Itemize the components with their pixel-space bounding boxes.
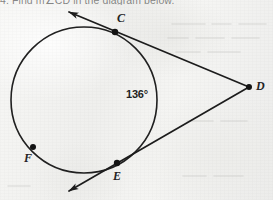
geometry-figure: [0, 0, 273, 200]
point-dot-E: [114, 160, 120, 166]
point-dot-C: [112, 29, 118, 35]
point-label-F: F: [24, 152, 32, 164]
point-label-E: E: [113, 170, 121, 182]
arc-measure-label: 136°: [126, 89, 148, 100]
point-label-C: C: [117, 12, 125, 24]
point-label-D: D: [256, 80, 265, 92]
point-dot-D: [246, 84, 252, 90]
circle-shape: [11, 27, 157, 173]
diagram-page: 4. Find m∠CD in the diagram below.: [0, 0, 273, 200]
tangent-ray-E-D: [69, 87, 249, 191]
point-dot-F: [30, 144, 36, 150]
tangent-ray-C-D: [69, 12, 249, 87]
